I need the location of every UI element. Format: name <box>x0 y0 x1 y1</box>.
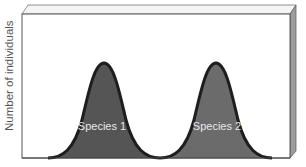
box-top-face <box>22 5 296 14</box>
species-2-label: Species 2 <box>193 120 241 132</box>
distribution-chart: Species 1 Species 2 <box>0 0 306 167</box>
species-1-label: Species 1 <box>78 120 126 132</box>
plot-area <box>22 14 290 158</box>
box-side-face <box>290 5 296 158</box>
